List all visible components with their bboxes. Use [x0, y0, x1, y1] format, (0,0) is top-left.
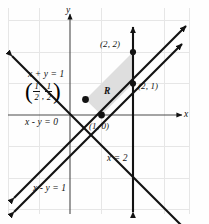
right-paren: ) [53, 81, 61, 102]
point-half-half [82, 96, 89, 103]
fraction-one-half-y: 1 2 [45, 82, 53, 101]
label-line-x-minus-y-equals-1: x - y = 1 [33, 184, 66, 194]
coordinate-plot [0, 0, 209, 224]
point-1-0 [98, 112, 105, 119]
label-point-1-0: (1, 0) [89, 122, 109, 131]
label-point-2-2: (2, 2) [100, 40, 120, 49]
fraction-one-half-x: 1 2 [33, 82, 41, 101]
left-paren: ( [25, 81, 33, 102]
point-2-2 [130, 49, 136, 55]
label-region-R: R [104, 87, 110, 97]
point-2-1 [130, 80, 136, 86]
label-line-x-equals-2: x = 2 [107, 154, 128, 164]
axis-label-x: x [184, 110, 188, 120]
label-point-2-1: (2, 1) [138, 82, 158, 91]
figure-container: x + y = 1 x - y = 0 x - y = 1 x = 2 (2, … [0, 0, 209, 224]
axis-label-y: y [66, 6, 70, 16]
label-point-half-half: ( 1 2 , 1 2 ) [25, 81, 61, 102]
label-line-x-minus-y-equals-0: x - y = 0 [25, 118, 58, 128]
